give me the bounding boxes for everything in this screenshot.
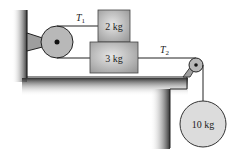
block-2kg: 2 kg	[98, 10, 130, 42]
label-t1: T1	[76, 12, 86, 25]
right-pulley	[189, 58, 203, 72]
ball-10kg: 10 kg	[180, 101, 226, 147]
ball-10kg-label: 10 kg	[192, 119, 215, 130]
block-3kg-label: 3 kg	[105, 53, 123, 64]
block-2kg-label: 2 kg	[105, 21, 123, 32]
table	[22, 77, 188, 149]
label-t2: T2	[160, 44, 170, 57]
left-pulley	[41, 26, 73, 58]
block-3kg: 3 kg	[90, 42, 138, 73]
diagram-canvas: T1 2 kg 3 kg T2 10 kg	[0, 0, 238, 162]
left-wall	[12, 10, 27, 82]
